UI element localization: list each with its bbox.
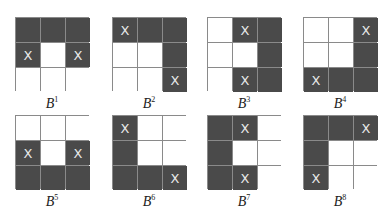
light-cell bbox=[138, 141, 162, 165]
panel-label: B8 bbox=[303, 193, 377, 210]
dark-cell: X bbox=[304, 68, 328, 92]
panel-label: B2 bbox=[112, 95, 186, 112]
dark-cell bbox=[163, 43, 187, 67]
grid-3x3: XX bbox=[303, 17, 377, 91]
dark-cell bbox=[329, 116, 353, 140]
label-superscript: 3 bbox=[246, 95, 250, 104]
grid-3x3: XX bbox=[15, 17, 89, 91]
dark-cell: X bbox=[233, 18, 257, 42]
dark-cell bbox=[66, 18, 90, 42]
dark-cell: X bbox=[354, 116, 378, 140]
pattern-panel-b3: XXB3 bbox=[207, 17, 281, 91]
label-letter: B bbox=[334, 96, 343, 111]
dark-cell bbox=[16, 18, 40, 42]
dark-cell: X bbox=[16, 43, 40, 67]
light-cell bbox=[329, 166, 353, 190]
dark-cell bbox=[113, 141, 137, 165]
pattern-panel-b7: XXB7 bbox=[207, 115, 281, 189]
label-superscript: 7 bbox=[246, 193, 250, 202]
panel-label: B5 bbox=[15, 193, 89, 210]
dark-cell bbox=[258, 43, 282, 67]
dark-cell bbox=[113, 166, 137, 190]
label-letter: B bbox=[143, 194, 152, 209]
light-cell bbox=[41, 43, 65, 67]
label-letter: B bbox=[238, 96, 247, 111]
pattern-panel-b6: XXB6 bbox=[112, 115, 186, 189]
dark-cell bbox=[258, 18, 282, 42]
label-letter: B bbox=[143, 96, 152, 111]
x-mark-icon: X bbox=[24, 146, 33, 161]
x-mark-icon: X bbox=[241, 23, 250, 38]
x-mark-icon: X bbox=[121, 121, 130, 136]
panel-label: B3 bbox=[207, 95, 281, 112]
x-mark-icon: X bbox=[24, 48, 33, 63]
x-mark-icon: X bbox=[74, 146, 83, 161]
dark-cell: X bbox=[113, 18, 137, 42]
light-cell bbox=[163, 116, 187, 140]
dark-cell bbox=[208, 166, 232, 190]
light-cell bbox=[354, 141, 378, 165]
dark-cell bbox=[354, 68, 378, 92]
dark-cell bbox=[66, 166, 90, 190]
light-cell bbox=[16, 116, 40, 140]
x-mark-icon: X bbox=[312, 73, 321, 88]
dark-cell bbox=[304, 116, 328, 140]
dark-cell bbox=[138, 166, 162, 190]
label-superscript: 2 bbox=[151, 95, 155, 104]
light-cell bbox=[208, 18, 232, 42]
label-superscript: 5 bbox=[54, 193, 58, 202]
dark-cell: X bbox=[233, 116, 257, 140]
panel-label: B1 bbox=[15, 95, 89, 112]
light-cell bbox=[138, 68, 162, 92]
light-cell bbox=[163, 141, 187, 165]
light-cell bbox=[41, 68, 65, 92]
dark-cell: X bbox=[113, 116, 137, 140]
x-mark-icon: X bbox=[74, 48, 83, 63]
label-superscript: 1 bbox=[54, 95, 58, 104]
light-cell bbox=[113, 43, 137, 67]
panel-label: B4 bbox=[303, 95, 377, 112]
label-superscript: 4 bbox=[342, 95, 346, 104]
dark-cell: X bbox=[233, 68, 257, 92]
label-letter: B bbox=[46, 96, 55, 111]
dark-cell: X bbox=[354, 18, 378, 42]
light-cell bbox=[258, 116, 282, 140]
dark-cell: X bbox=[233, 166, 257, 190]
grid-3x3: XX bbox=[207, 115, 281, 189]
dark-cell bbox=[208, 141, 232, 165]
light-cell bbox=[66, 116, 90, 140]
grid-3x3: XX bbox=[112, 17, 186, 91]
pattern-panel-b8: XXB8 bbox=[303, 115, 377, 189]
light-cell bbox=[354, 166, 378, 190]
panel-label: B7 bbox=[207, 193, 281, 210]
light-cell bbox=[329, 18, 353, 42]
dark-cell bbox=[41, 166, 65, 190]
dark-cell: X bbox=[163, 68, 187, 92]
light-cell bbox=[66, 68, 90, 92]
pattern-panel-b2: XXB2 bbox=[112, 17, 186, 91]
x-mark-icon: X bbox=[362, 121, 371, 136]
x-mark-icon: X bbox=[171, 73, 180, 88]
light-cell bbox=[208, 43, 232, 67]
dark-cell: X bbox=[304, 166, 328, 190]
dark-cell: X bbox=[66, 43, 90, 67]
dark-cell bbox=[41, 18, 65, 42]
light-cell bbox=[138, 116, 162, 140]
light-cell bbox=[304, 43, 328, 67]
grid-3x3: XX bbox=[303, 115, 377, 189]
x-mark-icon: X bbox=[312, 171, 321, 186]
dark-cell bbox=[16, 166, 40, 190]
light-cell bbox=[233, 43, 257, 67]
light-cell bbox=[16, 68, 40, 92]
dark-cell bbox=[258, 68, 282, 92]
light-cell bbox=[113, 68, 137, 92]
light-cell bbox=[138, 43, 162, 67]
light-cell bbox=[208, 68, 232, 92]
label-letter: B bbox=[46, 194, 55, 209]
light-cell bbox=[41, 141, 65, 165]
dark-cell: X bbox=[16, 141, 40, 165]
label-superscript: 8 bbox=[342, 193, 346, 202]
x-mark-icon: X bbox=[171, 171, 180, 186]
panel-label: B6 bbox=[112, 193, 186, 210]
pattern-panel-b4: XXB4 bbox=[303, 17, 377, 91]
